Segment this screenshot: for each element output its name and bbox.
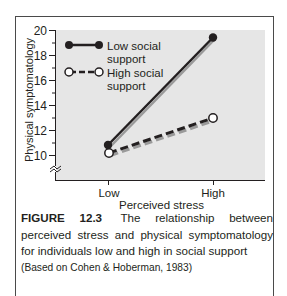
y-tick-labels: 20 18 16 14 12 10 [34, 24, 48, 163]
legend-label-low: Low social [107, 40, 161, 52]
y-ticks [49, 31, 56, 156]
svg-text:High: High [201, 187, 225, 199]
svg-text:10: 10 [34, 149, 48, 163]
line-chart: 20 18 16 14 12 10 Physical symptomatolog… [0, 0, 287, 205]
figure-label: FIGURE 12.3 [21, 211, 102, 224]
svg-text:support: support [107, 80, 146, 92]
svg-text:18: 18 [34, 49, 48, 63]
y-axis-label: Physical symptomatology [23, 37, 35, 162]
open-circle-icon [65, 68, 73, 76]
svg-text:Low: Low [98, 187, 120, 199]
plot-area [56, 30, 265, 180]
x-tick-labels: Low High [98, 187, 224, 199]
filled-circle-icon [65, 41, 73, 49]
data-point [209, 114, 217, 122]
figure-source: (Based on Cohen & Hoberman, 1983) [21, 262, 192, 273]
data-point [209, 33, 217, 41]
legend-label-high: High social [107, 67, 163, 79]
svg-text:14: 14 [34, 99, 48, 113]
svg-text:12: 12 [34, 124, 48, 138]
svg-text:support: support [107, 53, 146, 65]
svg-text:16: 16 [34, 74, 48, 88]
figure-caption: FIGURE 12.3 The relationship between per… [21, 210, 273, 260]
data-point [104, 141, 112, 149]
svg-text:20: 20 [34, 24, 48, 38]
data-point [105, 149, 113, 157]
